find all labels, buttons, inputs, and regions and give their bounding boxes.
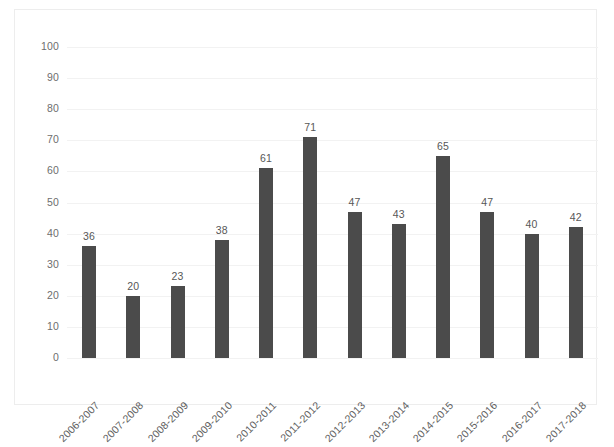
y-tick-label: 70 bbox=[19, 133, 59, 145]
x-axis: 2006-20072007-20082008-20092009-20102010… bbox=[67, 47, 598, 117]
y-tick-label: 10 bbox=[19, 320, 59, 332]
chart-frame: 362023386171474365474042 100908070605040… bbox=[14, 9, 597, 405]
y-tick-label: 100 bbox=[19, 40, 59, 52]
y-tick-label: 50 bbox=[19, 196, 59, 208]
y-tick-label: 80 bbox=[19, 102, 59, 114]
y-tick-label: 20 bbox=[19, 289, 59, 301]
y-tick-label: 0 bbox=[19, 351, 59, 363]
y-tick-label: 60 bbox=[19, 164, 59, 176]
y-tick-label: 90 bbox=[19, 71, 59, 83]
y-tick-label: 40 bbox=[19, 227, 59, 239]
y-tick-label: 30 bbox=[19, 258, 59, 270]
